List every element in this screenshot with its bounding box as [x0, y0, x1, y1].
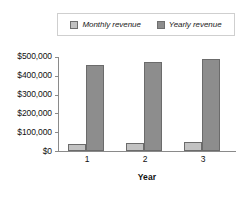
bar-yearly-1[interactable] — [86, 65, 104, 151]
y-axis-tick-label: $100,000 — [17, 128, 52, 137]
bar-group-1 — [68, 57, 104, 151]
plot-area — [58, 57, 236, 151]
y-axis-tick — [55, 132, 58, 133]
chart-legend: Monthly revenue Yearly revenue — [57, 13, 235, 36]
y-axis-tick — [55, 76, 58, 77]
legend-label-monthly: Monthly revenue — [82, 20, 140, 29]
y-axis-tick — [55, 113, 58, 114]
legend-entry-yearly-revenue[interactable]: Yearly revenue — [157, 20, 222, 29]
y-axis-tick-labels: $500,000 $400,000 $300,000 $200,000 $100… — [0, 50, 52, 158]
x-axis-line — [58, 151, 236, 152]
x-axis-tick-label: 2 — [135, 154, 155, 164]
bar-yearly-3[interactable] — [202, 59, 220, 151]
bar-yearly-2[interactable] — [144, 62, 162, 151]
y-axis-tick-label: $500,000 — [17, 52, 52, 61]
y-axis-tick-label: $0 — [43, 147, 52, 156]
legend-label-yearly: Yearly revenue — [169, 20, 222, 29]
bar-monthly-3[interactable] — [184, 142, 202, 151]
bar-chart: Monthly revenue Yearly revenue $500,000 … — [0, 0, 244, 197]
x-axis-title: Year — [58, 172, 236, 182]
bar-group-3 — [184, 57, 220, 151]
y-axis-tick — [55, 57, 58, 58]
y-axis-tick — [55, 95, 58, 96]
y-axis-tick — [55, 151, 58, 152]
x-axis-tick-label: 3 — [193, 154, 213, 164]
y-axis-tick-label: $400,000 — [17, 71, 52, 80]
y-axis-line — [58, 57, 59, 152]
legend-swatch-icon-yearly — [157, 21, 165, 29]
legend-entry-monthly-revenue[interactable]: Monthly revenue — [70, 20, 140, 29]
x-axis-tick-label: 1 — [77, 154, 97, 164]
y-axis-tick-label: $300,000 — [17, 90, 52, 99]
bar-monthly-1[interactable] — [68, 144, 86, 151]
bar-group-2 — [126, 57, 162, 151]
bar-monthly-2[interactable] — [126, 143, 144, 151]
x-axis-tick-labels: 1 2 3 — [58, 154, 236, 168]
y-axis-tick-label: $200,000 — [17, 109, 52, 118]
legend-swatch-icon-monthly — [70, 21, 78, 29]
